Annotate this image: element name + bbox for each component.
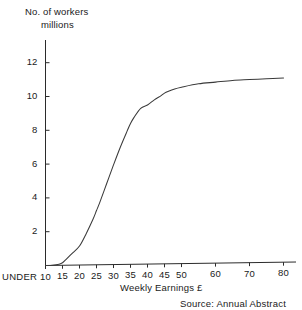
y-tick-label: 2 bbox=[20, 225, 38, 236]
x-tick-label: 80 bbox=[274, 267, 294, 278]
chart-figure: No. of workers millions 24681012 1015202… bbox=[0, 0, 302, 310]
data-series-line bbox=[46, 78, 284, 266]
x-tick-label: 50 bbox=[172, 269, 192, 280]
y-tick-label: 10 bbox=[20, 90, 38, 101]
x-axis-under-label: UNDER bbox=[2, 271, 37, 282]
x-tick-label: 60 bbox=[206, 268, 226, 279]
y-tick-marks bbox=[46, 63, 50, 232]
x-axis-line bbox=[46, 262, 297, 266]
y-tick-label: 4 bbox=[20, 191, 38, 202]
source-note: Source: Annual Abstract bbox=[180, 298, 286, 309]
y-tick-label: 12 bbox=[20, 56, 38, 67]
y-tick-label: 8 bbox=[20, 124, 38, 135]
x-tick-label: 70 bbox=[240, 268, 260, 279]
x-axis-title: Weekly Earnings £ bbox=[120, 282, 202, 293]
plot-area bbox=[0, 0, 302, 310]
y-tick-label: 6 bbox=[20, 158, 38, 169]
